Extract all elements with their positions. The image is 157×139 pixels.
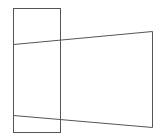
trapezoid-shape	[14, 32, 153, 128]
diagram-canvas	[0, 0, 157, 139]
tall-rectangle	[14, 9, 61, 133]
